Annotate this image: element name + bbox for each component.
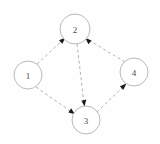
directed-graph-figure: 1 2 3 4 [0, 0, 160, 144]
node-3[interactable]: 3 [72, 106, 100, 134]
node-1[interactable]: 1 [14, 61, 42, 89]
node-3-label: 3 [84, 116, 89, 126]
node-4-label: 4 [132, 68, 137, 78]
node-1-label: 1 [26, 71, 31, 81]
node-4[interactable]: 4 [120, 58, 148, 86]
node-2[interactable]: 2 [60, 14, 90, 44]
node-2-label: 2 [73, 25, 78, 35]
